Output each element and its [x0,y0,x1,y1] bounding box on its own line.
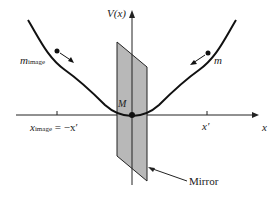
image-mass-main: m [20,54,28,66]
x-image-sub: image [35,125,52,133]
x-image-rhs: = −x′ [52,121,78,133]
mirror-label: Mirror [189,175,218,187]
x-prime-label: x′ [202,120,209,132]
image-mass-label: mimage [20,54,45,66]
x-image-label: ximage = −x′ [30,121,78,133]
mass-label: m [214,54,222,66]
mass-dot [206,51,211,56]
mirror-leader-arrowhead-icon [148,167,155,172]
mirror-leader-line [150,168,187,181]
y-axis-arrow-icon [129,10,135,18]
x-axis-arrow-icon [252,112,259,118]
minimum-point [129,112,135,118]
mirror-symmetry-diagram: V(x) x M x′ ximage = −x′ mimage m Mirror [0,0,270,202]
minimum-label: M [118,98,126,109]
image-mass-dot [55,49,60,54]
y-axis-label: V(x) [107,7,126,19]
x-axis-label: x [262,121,267,133]
diagram-canvas [0,0,270,202]
image-mass-sub: image [28,58,45,66]
image-mass-arrowhead-icon [68,57,74,63]
